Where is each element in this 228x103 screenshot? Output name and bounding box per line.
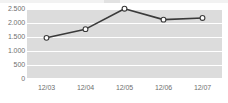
top-edge-cut-strip xyxy=(0,0,228,3)
x-axis-labels: 12/0312/0412/0512/0612/07 xyxy=(27,83,222,97)
y-axis-tick-label: 0 xyxy=(0,75,25,83)
line-chart: 05001.0001.5002.0002.500 12/0312/0412/05… xyxy=(0,0,228,103)
y-axis-tick-label: 2.000 xyxy=(0,19,25,27)
data-series-layer xyxy=(27,9,222,79)
data-point-marker xyxy=(200,16,205,21)
y-axis-tick-label: 1.500 xyxy=(0,33,25,41)
x-axis-tick-label: 12/05 xyxy=(105,83,145,92)
plot-area xyxy=(27,9,222,79)
data-point-marker xyxy=(44,35,49,40)
y-axis-tick-label: 500 xyxy=(0,61,25,69)
data-point-marker xyxy=(161,17,166,22)
y-axis-tick-label: 1.000 xyxy=(0,47,25,55)
x-axis-tick-label: 12/07 xyxy=(183,83,223,92)
y-axis-tick-label: 2.500 xyxy=(0,5,25,13)
top-edge-cut-strip-segment xyxy=(104,0,120,3)
data-point-marker xyxy=(122,6,127,11)
data-point-marker xyxy=(83,27,88,32)
x-axis-tick-label: 12/04 xyxy=(66,83,106,92)
x-axis-tick-label: 12/03 xyxy=(27,83,67,92)
y-axis-labels: 05001.0001.5002.0002.500 xyxy=(0,0,25,103)
series-markers xyxy=(44,6,205,40)
series-line xyxy=(47,9,203,38)
x-axis-tick-label: 12/06 xyxy=(144,83,184,92)
